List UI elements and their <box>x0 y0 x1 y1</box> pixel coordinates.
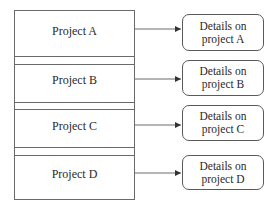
detail-box-c: Details on project C <box>182 105 264 141</box>
detail-d-line1: Details on <box>200 160 247 173</box>
detail-c-line2: project C <box>200 123 247 136</box>
detail-a-line1: Details on <box>200 20 247 33</box>
detail-b-line1: Details on <box>200 65 247 78</box>
detail-box-a: Details on project A <box>182 14 264 51</box>
detail-box-d: Details on project D <box>182 155 264 190</box>
detail-c-line1: Details on <box>200 110 247 123</box>
detail-a-line2: project A <box>200 33 247 46</box>
detail-d-line2: project D <box>200 173 247 186</box>
detail-b-line2: project B <box>200 78 247 91</box>
detail-box-b: Details on project B <box>182 60 264 96</box>
